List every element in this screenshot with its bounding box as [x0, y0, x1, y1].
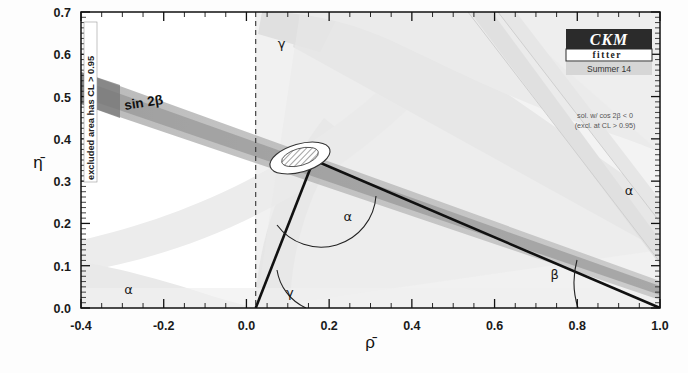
- angle-label-alpha-left-band: α: [124, 282, 133, 297]
- figure-root: -0.4-0.20.00.20.40.60.81.0 0.00.10.20.30…: [0, 0, 688, 373]
- excluded-area-note: excluded area has CL > 0.95: [84, 22, 97, 182]
- ckm-plot: -0.4-0.20.00.20.40.60.81.0 0.00.10.20.30…: [0, 0, 688, 373]
- y-tick-label: 0.0: [54, 302, 71, 316]
- logo-ckm-text: CKM: [590, 31, 629, 48]
- ckmfitter-logo: CKM fitter Summer 14: [566, 29, 652, 75]
- angle-label-gamma-origin: γ: [286, 285, 294, 300]
- x-tick-label: 1.0: [651, 319, 668, 333]
- cos2beta-note-line1: sol. w/ cos 2β < 0: [577, 111, 633, 120]
- angle-label-gamma-band: γ: [278, 36, 286, 51]
- y-tick-label: 0.5: [54, 91, 71, 105]
- x-tick-label: -0.2: [153, 319, 175, 333]
- x-axis-tick-labels: -0.4-0.20.00.20.40.60.81.0: [70, 319, 669, 333]
- angle-label-alpha-right-band: α: [625, 183, 634, 198]
- y-tick-label: 0.3: [54, 175, 71, 189]
- ckm-plot-svg: -0.4-0.20.00.20.40.60.81.0 0.00.10.20.30…: [0, 0, 688, 373]
- y-axis-title: η̄: [33, 153, 45, 172]
- cos2beta-note-line2: (excl. at CL > 0.95): [575, 121, 636, 130]
- x-tick-label: 0.4: [403, 319, 420, 333]
- y-tick-label: 0.4: [54, 133, 71, 147]
- x-tick-label: 0.8: [569, 319, 586, 333]
- y-tick-label: 0.1: [54, 260, 71, 274]
- angle-label-alpha-apex: α: [343, 209, 352, 224]
- y-tick-label: 0.2: [54, 217, 71, 231]
- x-tick-label: 0.2: [320, 319, 337, 333]
- excluded-area-label: excluded area has CL > 0.95: [86, 56, 96, 180]
- y-axis-tick-labels: 0.00.10.20.30.40.50.60.7: [54, 6, 71, 316]
- x-tick-label: -0.4: [70, 319, 92, 333]
- angle-label-beta-right: β: [550, 267, 558, 282]
- x-axis-title: ρ̄: [365, 333, 378, 352]
- x-tick-label: 0.6: [486, 319, 503, 333]
- x-tick-label: 0.0: [238, 319, 255, 333]
- logo-season-text: Summer 14: [587, 64, 631, 74]
- y-tick-label: 0.6: [54, 48, 71, 62]
- logo-fitter-text: fitter: [592, 50, 622, 60]
- y-tick-label: 0.7: [54, 6, 71, 20]
